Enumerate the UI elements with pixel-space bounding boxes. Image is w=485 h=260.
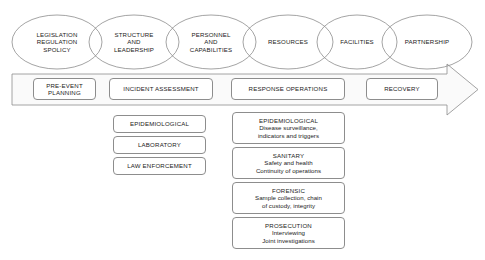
response-detail: Disease surveillance, indicators and tri…: [258, 124, 319, 139]
ellipse-partnership: [382, 15, 472, 69]
assessment-box-laboratory[interactable]: LABORATORY: [113, 136, 206, 154]
assessment-box-law-enforcement[interactable]: LAW ENFORCEMENT: [113, 157, 206, 175]
response-detail: Sample collection, chain of custody, int…: [255, 194, 322, 209]
phase-label: INCIDENT ASSESSMENT: [123, 85, 198, 92]
framework-diagram: LEGISLATION REGULATION SPOLICY STRUCTURE…: [0, 0, 485, 260]
ellipse-legislation: [12, 15, 102, 69]
response-box-prosecution[interactable]: PROSECUTION Interviewing Joint investiga…: [232, 217, 345, 249]
phase-box-incident-assessment[interactable]: INCIDENT ASSESSMENT: [109, 78, 213, 100]
phase-box-response-operations[interactable]: RESPONSE OPERATIONS: [231, 78, 345, 100]
phase-label: RESPONSE OPERATIONS: [249, 85, 328, 92]
response-box-forensic[interactable]: FORENSIC Sample collection, chain of cus…: [232, 182, 345, 214]
ellipse-structure: [89, 15, 179, 69]
phase-label: PRE-EVENT PLANNING: [46, 82, 83, 97]
response-title: FORENSIC: [272, 187, 305, 195]
response-title: SANITARY: [273, 152, 305, 160]
phase-box-recovery[interactable]: RECOVERY: [366, 78, 438, 100]
response-box-epidemiological[interactable]: EPIDEMIOLOGICAL Disease surveillance, in…: [232, 112, 345, 144]
assessment-title: LAW ENFORCEMENT: [127, 162, 192, 170]
response-detail: Safety and health Continuity of operatio…: [256, 159, 321, 174]
ellipse-personnel: [166, 15, 256, 69]
phase-label: RECOVERY: [384, 85, 420, 92]
assessment-title: EPIDEMIOLOGICAL: [130, 120, 189, 128]
response-box-sanitary[interactable]: SANITARY Safety and health Continuity of…: [232, 147, 345, 179]
assessment-title: LABORATORY: [138, 141, 181, 149]
response-title: PROSECUTION: [265, 222, 312, 230]
response-title: EPIDEMIOLOGICAL: [259, 117, 318, 125]
response-detail: Interviewing Joint investigations: [262, 229, 315, 244]
phase-box-pre-event-planning[interactable]: PRE-EVENT PLANNING: [33, 78, 96, 100]
assessment-box-epidemiological[interactable]: EPIDEMIOLOGICAL: [113, 115, 206, 133]
